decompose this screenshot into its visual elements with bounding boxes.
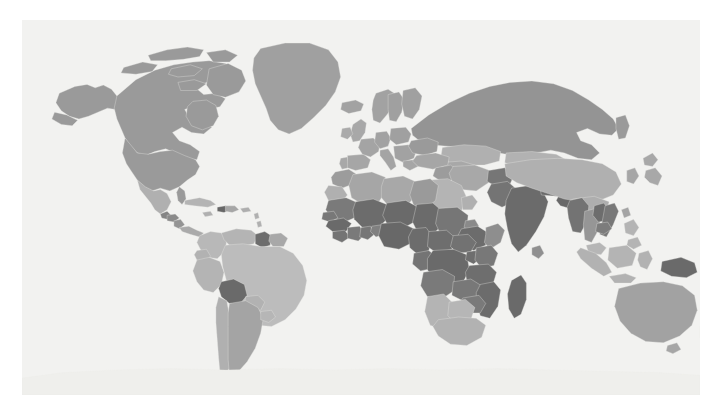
app-root [0, 0, 721, 420]
region-poland-baltics[interactable] [389, 127, 411, 145]
world-map-svg[interactable] [22, 20, 700, 395]
region-algeria[interactable] [349, 172, 386, 205]
world-map-panel[interactable] [22, 20, 700, 395]
region-antarctica[interactable] [22, 369, 700, 395]
region-spain[interactable] [347, 154, 370, 170]
